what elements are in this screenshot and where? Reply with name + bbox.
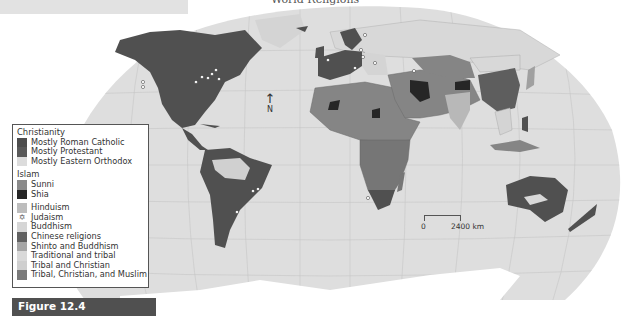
legend-swatch — [17, 251, 27, 261]
legend-label: Shia — [31, 190, 49, 200]
star-of-david-icon: ✡ — [17, 213, 27, 223]
legend-swatch — [17, 222, 27, 232]
legend-label: Mostly Eastern Orthodox — [31, 157, 132, 167]
legend-swatch — [17, 232, 27, 242]
scale-end-label: 2400 km — [451, 222, 484, 231]
legend-item: Mostly Eastern Orthodox — [17, 157, 144, 167]
legend-swatch — [17, 261, 27, 271]
legend-item: Shia — [17, 190, 144, 200]
legend-swatch — [17, 147, 27, 157]
legend-swatch — [17, 180, 27, 190]
legend-swatch — [17, 270, 27, 280]
legend-swatch — [17, 190, 27, 200]
legend-item: Tribal, Christian, and Muslim — [17, 270, 144, 280]
map-legend: Christianity Mostly Roman Catholic Mostl… — [12, 124, 149, 288]
north-indicator: ↑ N — [264, 93, 276, 114]
legend-swatch — [17, 138, 27, 148]
north-label: N — [264, 105, 276, 114]
north-arrow-icon: ↑ — [264, 93, 276, 105]
figure-label: Figure 12.4 — [12, 298, 156, 316]
philippines — [522, 116, 528, 132]
legend-swatch — [17, 157, 27, 167]
scale-bar-line — [424, 215, 461, 221]
scale-start-label: 0 — [421, 222, 426, 231]
legend-swatch — [17, 203, 27, 213]
legend-label: Tribal, Christian, and Muslim — [31, 270, 147, 280]
legend-swatch — [17, 242, 27, 252]
